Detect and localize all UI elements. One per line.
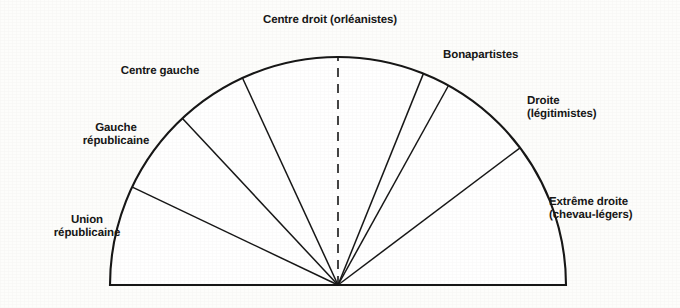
label-centre-droit: Centre droit (orléanistes) [263, 14, 397, 28]
hemicycle-diagram: Centre droit (orléanistes) Centre gauche… [0, 0, 680, 308]
label-centre-gauche: Centre gauche [121, 65, 200, 79]
label-union-republicaine-line1: Union [71, 214, 103, 228]
label-droite-line2: (légitimistes) [527, 108, 597, 122]
hemicycle-svg [0, 0, 680, 308]
label-union-republicaine-line2: républicaine [54, 227, 121, 241]
label-gauche-republicaine-line1: Gauche [95, 122, 137, 136]
label-extreme-droite-line2: (chevau-légers) [549, 209, 633, 223]
label-gauche-republicaine-line2: républicaine [83, 135, 150, 149]
label-extreme-droite-line1: Extrême droite [549, 196, 628, 210]
label-bonapartistes: Bonapartistes [443, 49, 518, 63]
label-droite-line1: Droite [527, 95, 560, 109]
